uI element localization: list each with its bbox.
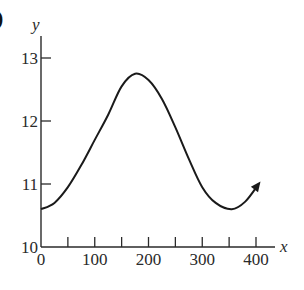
x-tick-label: 400 — [243, 250, 269, 269]
x-tick-label: 200 — [136, 250, 162, 269]
y-tick-label: 10 — [21, 238, 38, 257]
panel-label: ) — [0, 5, 3, 30]
arrowhead-icon — [251, 182, 261, 193]
y-axis-label: y — [30, 15, 40, 34]
line-chart: ) 010020030040010111213 y x — [0, 0, 304, 290]
data-curve — [41, 74, 259, 210]
y-tick-label: 13 — [21, 49, 38, 68]
axes — [41, 36, 275, 247]
x-tick-label: 300 — [190, 250, 216, 269]
axis-ticks — [41, 58, 256, 247]
x-tick-label: 100 — [82, 250, 108, 269]
y-tick-label: 11 — [22, 175, 38, 194]
y-tick-label: 12 — [21, 112, 38, 131]
tick-labels: 010020030040010111213 — [21, 49, 269, 269]
x-tick-label: 0 — [37, 250, 46, 269]
x-axis-label: x — [279, 237, 288, 256]
